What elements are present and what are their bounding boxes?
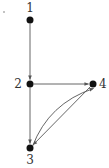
node-4 (90, 81, 97, 88)
node-label-2: 2 (14, 77, 22, 91)
graph-diagram: 1243 (0, 0, 109, 168)
edge-4-to-3 (33, 86, 90, 144)
node-3 (27, 145, 34, 152)
node-label-3: 3 (26, 153, 34, 167)
edge-3-to-4 (32, 89, 93, 147)
stray-dot (3, 11, 5, 13)
edges-group (30, 24, 94, 147)
node-label-4: 4 (99, 77, 107, 91)
node-2 (27, 81, 34, 88)
node-1 (27, 17, 34, 24)
node-label-1: 1 (26, 1, 34, 15)
